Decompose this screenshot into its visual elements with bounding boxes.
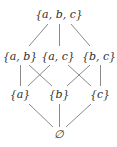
edge-ac-a	[28, 65, 50, 86]
edge-c-empty	[66, 104, 91, 127]
node-abc: {a, b, c}	[35, 8, 83, 21]
node-ab: {a, b}	[3, 50, 38, 63]
edge-a-empty	[29, 104, 53, 127]
edge-abc-ab	[29, 24, 48, 46]
node-bc: {b, c}	[82, 50, 116, 63]
node-empty-set: ∅	[54, 128, 64, 141]
node-b: {b}	[48, 88, 69, 101]
edge-bc-b	[67, 65, 90, 86]
node-ac: {a, c}	[41, 50, 75, 63]
edge-abc-bc	[71, 24, 90, 46]
edge-ab-b	[29, 65, 52, 86]
node-c: {c}	[90, 88, 110, 101]
hasse-diagram: {a, b, c} {a, b} {a, c} {b, c} {a} {b} {…	[0, 0, 117, 147]
edges-group	[21, 24, 101, 127]
node-a: {a}	[10, 88, 31, 101]
edge-ac-c	[68, 65, 91, 86]
